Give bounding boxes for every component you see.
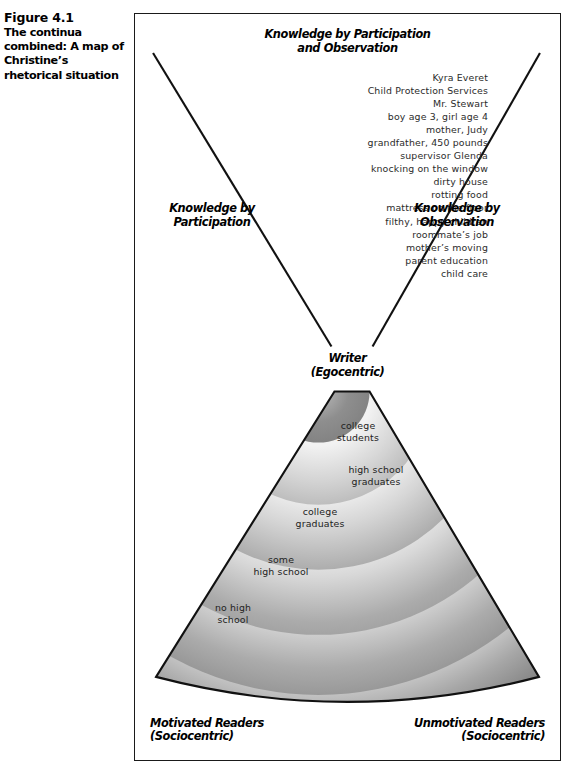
cone-band-label-line: school	[185, 614, 281, 626]
left-axis-label-line-2: Participation	[157, 216, 267, 230]
list-item: Kyra Everet	[368, 71, 488, 84]
participation-axis-line	[153, 53, 331, 346]
cone-band-label-high-school-graduates: high school graduates	[321, 464, 431, 489]
right-axis-label-line-1: Knowledge by	[397, 202, 517, 216]
list-item: child care	[368, 267, 488, 280]
bottom-left-label-line-2: (Sociocentric)	[150, 730, 264, 744]
cone-band-label-no-high-school: no high school	[185, 602, 281, 627]
list-item: supervisor Glenda	[368, 149, 488, 162]
cone-band-label-line: no high	[185, 602, 281, 614]
list-item: rotting food	[368, 188, 488, 201]
figure-graphic	[135, 14, 560, 760]
cone-band-label-line: high school	[231, 566, 331, 578]
top-axis-label-line-2: and Observation	[135, 42, 560, 56]
list-item: knocking on the window	[368, 162, 488, 175]
cone-band-label-college-graduates: college graduates	[265, 506, 375, 531]
bottom-left-label: Motivated Readers (Sociocentric)	[150, 717, 264, 744]
cone-band-label-line: students	[313, 432, 403, 444]
list-item: grandfather, 450 pounds	[368, 136, 488, 149]
left-axis-label: Knowledge by Participation	[157, 202, 267, 229]
right-axis-label: Knowledge by Observation	[397, 202, 517, 229]
cone-band-label-line: graduates	[321, 476, 431, 488]
bottom-right-label-line-2: (Sociocentric)	[414, 730, 545, 744]
rhetorical-item-list: Kyra Everet Child Protection Services Mr…	[368, 71, 488, 280]
list-item: mother’s moving	[368, 241, 488, 254]
cone-band-label-college-students: college students	[313, 420, 403, 445]
top-axis-label-line-1: Knowledge by Participation	[135, 28, 560, 42]
writer-apex-label-line-1: Writer	[135, 352, 560, 366]
list-item: Child Protection Services	[368, 84, 488, 97]
list-item: roommate’s job	[368, 228, 488, 241]
cone-band-label-line: college	[265, 506, 375, 518]
list-item: Mr. Stewart	[368, 97, 488, 110]
left-axis-label-line-1: Knowledge by	[157, 202, 267, 216]
list-item: dirty house	[368, 175, 488, 188]
top-axis-label: Knowledge by Participation and Observati…	[135, 28, 560, 55]
list-item: mother, Judy	[368, 123, 488, 136]
right-axis-label-line-2: Observation	[397, 216, 517, 230]
figure-caption-text: The continua combined: A map of Christin…	[4, 26, 128, 83]
cone-band-label-line: college	[313, 420, 403, 432]
bottom-right-label: Unmotivated Readers (Sociocentric)	[414, 717, 545, 744]
figure-frame: Knowledge by Participation and Observati…	[134, 13, 561, 761]
cone-band-label-line: high school	[321, 464, 431, 476]
bottom-left-label-line-1: Motivated Readers	[150, 717, 264, 731]
list-item: boy age 3, girl age 4	[368, 110, 488, 123]
list-item: parent education	[368, 254, 488, 267]
figure-caption: Figure 4.1 The continua combined: A map …	[4, 10, 128, 83]
cone-band-label-some-high-school: some high school	[231, 554, 331, 579]
bottom-right-label-line-1: Unmotivated Readers	[414, 717, 545, 731]
cone-band-label-line: graduates	[265, 518, 375, 530]
figure-number: Figure 4.1	[4, 10, 128, 25]
writer-apex-label-line-2: (Egocentric)	[135, 366, 560, 380]
cone-band-label-line: some	[231, 554, 331, 566]
writer-apex-label: Writer (Egocentric)	[135, 352, 560, 379]
